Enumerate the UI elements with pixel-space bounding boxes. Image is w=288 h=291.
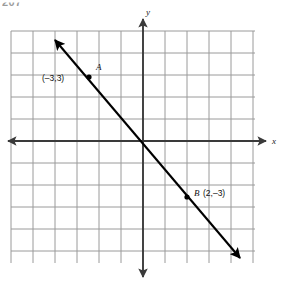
y-axis-label: y (145, 7, 150, 17)
point-b-coordinate-label: (2,–3) (203, 188, 225, 198)
grid-lines (11, 31, 255, 263)
point-b-marker (184, 194, 189, 199)
point-a-marker (86, 74, 91, 79)
x-axis-label: x (271, 136, 276, 146)
point-b-group: B (2,–3) (184, 188, 225, 200)
coordinate-plane-figure: 207 (0, 0, 288, 291)
point-a-coordinate-label: (–3,3) (42, 73, 64, 83)
point-b-label: B (194, 188, 200, 198)
axes (8, 19, 266, 277)
point-a-group: A (–3,3) (42, 62, 102, 83)
graph-canvas: y x A (–3,3) B (2,–3) (0, 0, 288, 291)
line-ab (55, 40, 240, 258)
point-a-label: A (95, 62, 102, 72)
grid-lines-vertical (11, 31, 253, 263)
